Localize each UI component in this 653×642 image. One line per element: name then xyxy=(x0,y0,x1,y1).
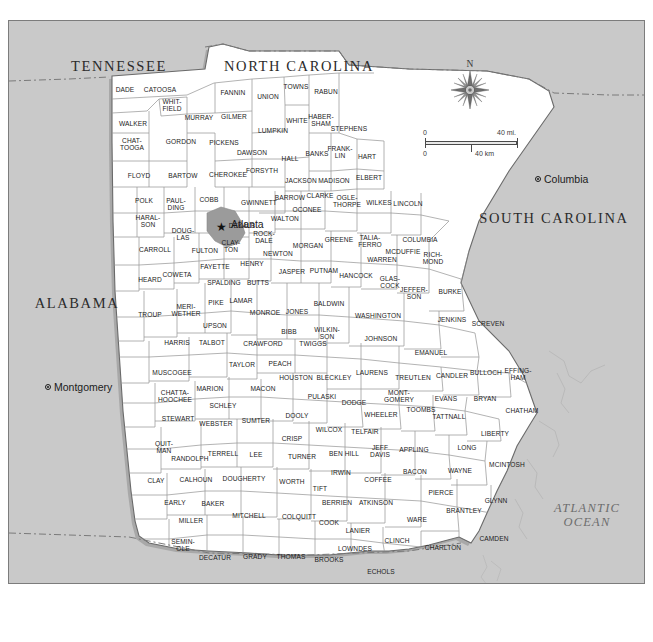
state-outline-group xyxy=(109,44,554,558)
florida-river-sketch xyxy=(481,555,501,584)
compass-rose: N xyxy=(450,59,490,111)
georgia-county-shapes xyxy=(9,21,645,584)
capital-marker-icon xyxy=(45,384,51,390)
scale-km-max: 40 km xyxy=(475,150,494,157)
scale-km-zero: 0 xyxy=(423,150,427,157)
state-capital-star-icon: ★ xyxy=(216,221,227,233)
georgia-landmass xyxy=(9,21,645,584)
scale-tick-right xyxy=(517,138,518,148)
map-frame: N xyxy=(8,20,645,584)
scale-tick-left xyxy=(425,138,426,148)
capital-marker-icon xyxy=(535,176,541,182)
scale-miles-max: 40 mi. xyxy=(497,129,516,136)
compass-north-label: N xyxy=(467,59,474,69)
compass-rose-icon xyxy=(450,70,490,110)
scale-tick-mid xyxy=(471,145,472,152)
georgia-county-map: N xyxy=(0,0,653,642)
scale-miles-zero: 0 xyxy=(423,129,427,136)
scale-bar: 0 40 mi. 0 40 km xyxy=(421,129,531,161)
coastal-inlets xyxy=(515,351,605,539)
